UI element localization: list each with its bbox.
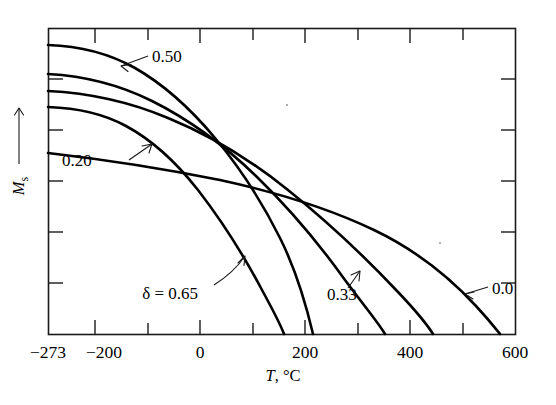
x-axis-title: T, °C	[265, 366, 300, 385]
x-tick-label: −200	[86, 342, 122, 362]
y-axis-title: Ms	[9, 108, 31, 196]
curve-020	[48, 91, 433, 334]
chart-canvas: 0.50 0.20 δ = 0.65 0.33 0.0 −273	[0, 0, 556, 405]
y-axis-ticks-left	[49, 79, 63, 283]
x-axis-ticks-bottom	[48, 320, 463, 334]
svg-text:Ms: Ms	[9, 176, 31, 196]
chart-figure: 0.50 0.20 δ = 0.65 0.33 0.0 −273	[0, 0, 556, 405]
x-tick-label: 200	[292, 342, 319, 362]
curve-label-020: 0.20	[62, 151, 92, 170]
scan-speck	[439, 242, 441, 244]
x-tick-label: 600	[502, 342, 529, 362]
plot-frame	[49, 29, 516, 335]
x-tick-label: 400	[397, 342, 424, 362]
y-axis-up-arrow-icon	[15, 108, 24, 164]
svg-text:T, °C: T, °C	[265, 366, 300, 385]
curve-label-000: 0.0	[492, 279, 513, 298]
x-tick-label: 0	[196, 342, 205, 362]
x-axis-ticks-top	[95, 29, 463, 43]
x-axis-tick-labels: −273 −200 0 200 400 600	[30, 342, 528, 362]
x-axis-unit: , °C	[275, 366, 301, 385]
y-axis-symbol: M	[9, 180, 28, 196]
curve-label-065: δ = 0.65	[142, 284, 198, 303]
curve-label-033: 0.33	[327, 285, 357, 304]
x-tick-label: −273	[30, 342, 66, 362]
y-axis-subscript: s	[17, 176, 31, 181]
annotation-000: 0.0	[465, 279, 513, 299]
y-axis-ticks-right	[501, 79, 515, 283]
annotation-050: 0.50	[121, 47, 182, 72]
scan-speck	[286, 104, 288, 106]
curve-label-050: 0.50	[152, 47, 182, 66]
annotation-065: δ = 0.65	[142, 256, 245, 303]
